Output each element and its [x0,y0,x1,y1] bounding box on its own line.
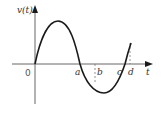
point-label-c: c [117,67,122,77]
y-axis-label: v(t) [17,5,33,15]
point-label-b: b [97,67,103,77]
point-label-a: a [75,67,80,77]
y-axis-arrow-icon [32,5,38,13]
waveform-curve [35,21,131,93]
waveform-diagram: v(t) 0 a b c d t [0,0,163,116]
origin-label: 0 [25,68,31,78]
point-label-d: d [128,67,134,77]
x-axis-label: t [146,67,150,77]
